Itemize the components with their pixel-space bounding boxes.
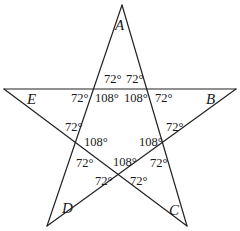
angle-label-top-right-outer: 72° — [155, 92, 173, 105]
angle-label-top-left-outer: 72° — [71, 92, 89, 105]
segment-a-c — [122, 5, 187, 226]
angle-label-right-upper: 72° — [166, 121, 184, 134]
angle-label-right-inner: 108° — [139, 136, 163, 149]
angle-label-bottom-inner: 108° — [113, 156, 137, 169]
angle-label-left-upper: 72° — [65, 121, 83, 134]
vertex-label-c: C — [169, 203, 179, 218]
vertex-label-e: E — [27, 92, 36, 107]
vertex-label-a: A — [115, 18, 124, 33]
vertex-label-d: D — [62, 201, 73, 216]
angle-label-top-right-inner: 108° — [124, 92, 148, 105]
pentagram-lines — [0, 0, 240, 231]
angle-label-bottom-left: 72° — [95, 175, 113, 188]
angle-label-right-lower: 72° — [150, 157, 168, 170]
angle-label-top-right-upper: 72° — [126, 73, 144, 86]
pentagram-diagram: A B C D E 72° 72° 72° 108° 108° 72° 72° … — [0, 0, 240, 231]
angle-label-top-left-inner: 108° — [95, 92, 119, 105]
segment-a-d — [47, 5, 122, 226]
angle-label-left-lower: 72° — [76, 157, 94, 170]
angle-label-bottom-right: 72° — [130, 175, 148, 188]
vertex-label-b: B — [206, 92, 215, 107]
angle-label-left-inner: 108° — [84, 136, 108, 149]
angle-label-top-left-upper: 72° — [104, 73, 122, 86]
